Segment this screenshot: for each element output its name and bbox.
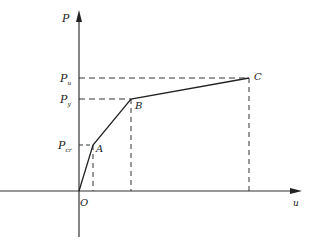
- y-axis-arrow-icon: [76, 10, 82, 22]
- point-a-label: A: [95, 143, 103, 154]
- pu-label: Pu: [59, 72, 71, 86]
- x-axis-label: u: [293, 198, 299, 208]
- point-b-label: B: [134, 100, 142, 111]
- py-label: Py: [59, 93, 71, 108]
- point-c-label: C: [254, 71, 262, 82]
- load-displacement-diagram: P u O Pu Py Pcr A B C: [0, 0, 318, 249]
- diagram-canvas: P u O Pu Py Pcr A B C: [0, 0, 318, 249]
- x-axis-arrow-icon: [290, 188, 302, 194]
- load-curve: [79, 78, 249, 191]
- pcr-label: Pcr: [57, 139, 73, 153]
- origin-label: O: [80, 197, 88, 208]
- y-axis-label: P: [61, 12, 70, 25]
